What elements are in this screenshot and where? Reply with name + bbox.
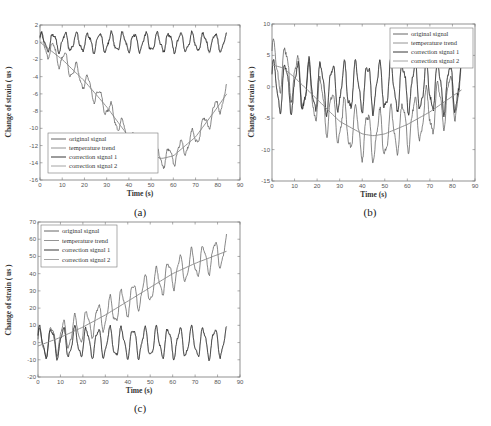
y-tick-label: -12 <box>29 143 38 149</box>
x-axis-label: Time (s) <box>360 190 387 199</box>
x-tick-label: 80 <box>449 183 456 189</box>
x-tick-label: 60 <box>169 379 176 385</box>
x-tick-label: 0 <box>38 182 42 188</box>
y-tick-label: 0 <box>33 340 37 346</box>
x-tick-label: 50 <box>147 379 154 385</box>
y-tick-label: -14 <box>29 160 38 166</box>
y-axis-label: Change of strain ( us ) <box>247 66 256 138</box>
x-tick-label: 20 <box>314 183 321 189</box>
legend-label: correction signal 2 <box>69 162 117 169</box>
x-tick-label: 20 <box>80 379 87 385</box>
legend-label: correction signal 1 <box>69 153 117 160</box>
y-tick-label: -2 <box>33 56 39 62</box>
x-tick-label: 30 <box>102 379 109 385</box>
y-tick-label: -15 <box>261 178 270 184</box>
series-temperature-trend <box>272 65 462 136</box>
y-tick-label: -10 <box>27 357 36 363</box>
x-tick-label: 30 <box>103 182 110 188</box>
y-tick-label: 0 <box>267 84 271 90</box>
x-tick-label: 20 <box>81 182 88 188</box>
panel-caption: (c) <box>134 402 147 415</box>
y-tick-label: -10 <box>261 147 270 153</box>
y-tick-label: 5 <box>267 52 271 58</box>
legend-label: correction signal 1 <box>411 48 459 55</box>
figure: 010203040506070809020-2-4-6-8-10-12-14-1… <box>0 0 491 426</box>
x-tick-label: 50 <box>148 182 155 188</box>
y-tick-label: 20 <box>29 305 36 311</box>
y-tick-label: 10 <box>29 322 36 328</box>
x-tick-label: 10 <box>291 183 298 189</box>
y-tick-label: 0 <box>35 39 39 45</box>
x-axis-label: Time (s) <box>126 386 153 395</box>
y-axis-label: Change of strain ( us ) <box>4 66 13 138</box>
x-tick-label: 0 <box>270 183 274 189</box>
legend-label: correction signal 2 <box>62 256 110 263</box>
legend-label: original signal <box>62 227 100 234</box>
x-tick-label: 90 <box>472 183 479 189</box>
legend-label: temperature trend <box>62 237 109 244</box>
y-axis-label: Change of strain ( us ) <box>4 264 13 336</box>
x-tick-label: 70 <box>192 182 199 188</box>
y-tick-label: -20 <box>27 374 36 380</box>
y-tick-label: 10 <box>263 21 270 27</box>
x-tick-label: 80 <box>214 379 221 385</box>
panel-caption: (a) <box>134 206 147 219</box>
chart-panel-a: 010203040506070809020-2-4-6-8-10-12-14-1… <box>4 22 244 219</box>
x-tick-label: 50 <box>381 183 388 189</box>
y-tick-label: 40 <box>29 271 36 277</box>
x-tick-label: 90 <box>237 182 244 188</box>
panel-caption: (b) <box>364 206 377 219</box>
y-tick-label: 30 <box>29 288 36 294</box>
series-correction-signal-1 <box>38 325 227 361</box>
x-axis-label: Time (s) <box>127 189 154 198</box>
x-tick-label: 90 <box>237 379 244 385</box>
x-tick-label: 40 <box>126 182 133 188</box>
y-tick-label: 2 <box>35 22 39 28</box>
chart-panel-c: 0102030405060708090706050403020100-10-20… <box>4 219 244 415</box>
x-tick-label: 80 <box>214 182 221 188</box>
y-tick-label: -16 <box>29 177 38 183</box>
x-tick-label: 0 <box>36 379 40 385</box>
legend: original signaltemperature trendcorrecti… <box>41 225 117 267</box>
legend: original signaltemperature trendcorrecti… <box>390 28 473 68</box>
y-tick-label: -5 <box>265 115 271 121</box>
x-tick-label: 70 <box>192 379 199 385</box>
series-correction-signal-1 <box>40 31 227 55</box>
x-tick-label: 60 <box>170 182 177 188</box>
legend-label: correction signal 2 <box>411 57 459 64</box>
x-tick-label: 70 <box>427 183 434 189</box>
y-tick-label: 70 <box>29 219 36 225</box>
legend-label: temperature trend <box>411 39 458 46</box>
x-tick-label: 40 <box>359 183 366 189</box>
x-tick-label: 60 <box>404 183 411 189</box>
legend-label: correction signal 1 <box>62 246 110 253</box>
legend-label: temperature trend <box>69 144 116 151</box>
legend-label: original signal <box>411 30 449 37</box>
chart-panel-b: 01020304050607080901050-5-10-15Time (s)C… <box>247 21 479 219</box>
x-tick-label: 10 <box>57 379 64 385</box>
y-tick-label: -10 <box>29 125 38 131</box>
y-tick-label: -8 <box>33 108 39 114</box>
x-tick-label: 40 <box>124 379 131 385</box>
y-tick-label: 50 <box>29 253 36 259</box>
x-tick-label: 30 <box>336 183 343 189</box>
y-tick-label: -4 <box>33 74 39 80</box>
y-tick-label: -6 <box>33 91 39 97</box>
y-tick-label: 60 <box>29 236 36 242</box>
legend: original signaltemperature trendcorrecti… <box>48 133 158 173</box>
legend-label: original signal <box>69 135 107 142</box>
x-tick-label: 10 <box>59 182 66 188</box>
